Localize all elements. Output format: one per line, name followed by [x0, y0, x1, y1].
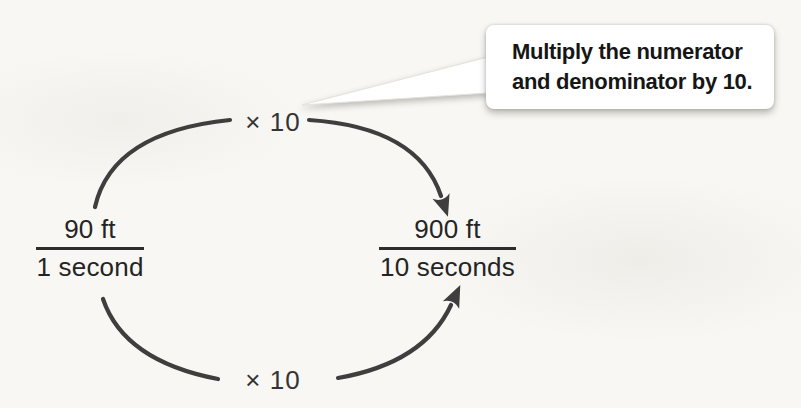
left-rate-fraction: 90 ft 1 second	[36, 213, 144, 284]
right-numerator: 900 ft	[379, 213, 516, 246]
top-left-arc	[95, 120, 230, 207]
callout-tail	[302, 57, 488, 105]
bottom-multiplier-label: × 10	[233, 366, 313, 394]
right-fraction-bar	[379, 247, 516, 250]
right-rate-fraction: 900 ft 10 seconds	[379, 213, 516, 284]
right-denominator: 10 seconds	[379, 251, 516, 284]
bottom-right-arrow	[338, 305, 451, 378]
left-fraction-bar	[36, 247, 144, 250]
callout-box: Multiply the numerator and denominator b…	[486, 25, 774, 109]
callout-text-line1: Multiply the numerator	[512, 37, 774, 67]
callout-text-line2: and denominator by 10.	[512, 67, 774, 97]
bottom-left-arc	[103, 299, 218, 379]
equivalent-rates-diagram: 90 ft 1 second 900 ft 10 seconds × 10 × …	[0, 0, 801, 408]
left-denominator: 1 second	[36, 251, 144, 284]
top-multiplier-label: × 10	[233, 108, 313, 136]
top-right-arrow	[309, 120, 441, 196]
left-numerator: 90 ft	[36, 213, 144, 246]
